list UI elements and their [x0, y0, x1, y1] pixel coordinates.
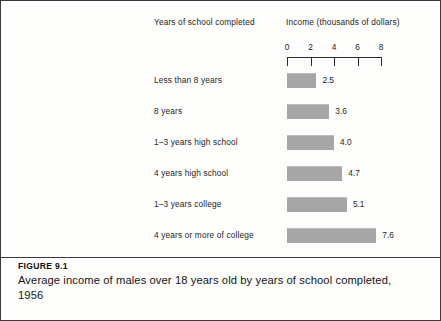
figure-container: Years of school completed Income (thousa… — [0, 0, 441, 321]
bar-category-label: 4 years high school — [154, 168, 228, 178]
bar-category-label: Less than 8 years — [154, 75, 222, 85]
bar-category-label: 1–3 years high school — [154, 137, 238, 147]
axis-tick-label: 6 — [355, 42, 360, 52]
value-axis-header: Income (thousands of dollars) — [286, 17, 400, 27]
axis-tick — [311, 57, 312, 66]
bar-chart: Years of school completed Income (thousa… — [1, 1, 441, 257]
x-axis: 02468 — [287, 57, 381, 66]
bar-value-label: 2.5 — [322, 75, 334, 85]
bar-row: 1–3 years high school4.0 — [1, 135, 441, 150]
bar — [287, 166, 342, 181]
axis-tick — [334, 57, 335, 66]
bar-category-label: 8 years — [154, 106, 182, 116]
axis-tick — [381, 57, 382, 66]
bar-value-label: 4.0 — [340, 137, 352, 147]
bar — [287, 104, 329, 119]
axis-tick — [287, 57, 288, 66]
bar — [287, 135, 334, 150]
bar-category-label: 4 years or more of college — [154, 230, 254, 240]
bar-row: 8 years3.6 — [1, 104, 441, 119]
axis-tick-label: 2 — [308, 42, 313, 52]
bar-row: 4 years high school4.7 — [1, 166, 441, 181]
bar — [287, 228, 376, 243]
bar-value-label: 7.6 — [382, 230, 394, 240]
bar-value-label: 3.6 — [335, 106, 347, 116]
figure-caption: FIGURE 9.1 Average income of males over … — [18, 261, 418, 302]
bar — [287, 73, 316, 88]
bar-value-label: 4.7 — [348, 168, 360, 178]
axis-tick — [358, 57, 359, 66]
caption-divider — [1, 257, 441, 258]
bar-category-label: 1–3 years college — [154, 199, 222, 209]
category-column-header: Years of school completed — [154, 17, 255, 27]
axis-tick-label: 8 — [379, 42, 384, 52]
bar-value-label: 5.1 — [353, 199, 365, 209]
figure-caption-text: Average income of males over 18 years ol… — [18, 273, 418, 302]
bar-row: 4 years or more of college7.6 — [1, 228, 441, 243]
bar-row: Less than 8 years2.5 — [1, 73, 441, 88]
bar — [287, 197, 347, 212]
axis-tick-label: 0 — [285, 42, 290, 52]
bar-row: 1–3 years college5.1 — [1, 197, 441, 212]
axis-tick-label: 4 — [332, 42, 337, 52]
figure-number: FIGURE 9.1 — [18, 261, 418, 271]
